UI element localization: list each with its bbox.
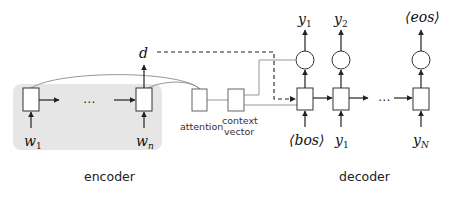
encoder-label: encoder [84,169,136,184]
decoder-ellipsis: … [378,89,391,104]
decoder-input-label-yN: yN [412,132,430,150]
context-label-line2: vector [224,126,254,137]
context-to-output-line [244,60,295,95]
decoder-output-label-1: y1 [297,11,312,29]
encoder-output-label-d: d [139,45,148,61]
attention-label: attention [180,121,223,132]
seq2seq-diagram: … w1 wn d attention context vector … y1 … [0,0,449,199]
decoder-output-node-2 [332,51,350,69]
encoder-ellipsis: … [83,91,96,106]
decoder-output-node-n [412,51,430,69]
attention-box [192,89,207,111]
context-vector-box [228,89,244,111]
decoder-input-label-bos: ⟨bos⟩ [289,132,325,148]
decoder-input-label-y1: y1 [334,132,349,150]
encoder-cell-1 [23,88,39,111]
decoder-cell-1 [297,88,313,110]
decoder-output-label-eos: ⟨eos⟩ [405,9,440,25]
context-label-line1: context [222,115,258,126]
dashed-arrowhead [290,96,296,102]
decoder-cell-2 [333,88,349,110]
decoder-cell-n [413,88,429,110]
encoder-cell-n [136,88,152,111]
d-to-decoder-dashed [157,52,290,99]
decoder-output-label-2: y2 [333,11,348,29]
decoder-output-node-1 [296,51,314,69]
decoder-label: decoder [339,169,391,184]
